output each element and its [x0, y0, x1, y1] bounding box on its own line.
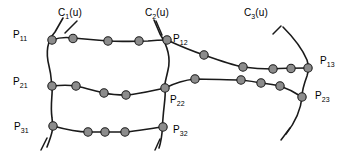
tick-c1-bottom: [41, 138, 47, 150]
control-point-n-mid-1: [72, 82, 80, 90]
control-point-n-bot-3: [121, 128, 129, 136]
label-p32: P32: [173, 125, 188, 137]
label-p31: P31: [14, 122, 29, 134]
label-p22-base: P: [170, 94, 177, 105]
label-p32-base: P: [173, 124, 180, 135]
control-point-n-mr-3: [257, 79, 265, 87]
label-p12-base: P: [173, 33, 180, 44]
label-p32-sub: 32: [180, 130, 188, 137]
control-point-p12: [163, 36, 171, 44]
control-point-p13: [304, 64, 312, 72]
label-p12: P12: [173, 34, 188, 46]
control-point-n-mid-3: [122, 91, 130, 99]
label-p31-sub: 31: [21, 127, 29, 134]
control-point-n-mr-2: [237, 76, 245, 84]
label-p23: P23: [315, 91, 330, 103]
label-p21: P21: [13, 77, 28, 89]
label-p13: P13: [320, 56, 335, 68]
label-c1: C1(u): [58, 8, 82, 20]
label-p11-base: P: [13, 29, 20, 40]
control-point-n-top-1: [69, 34, 77, 42]
label-c1-tail: (u): [69, 7, 82, 18]
label-c2: C2(u): [145, 8, 169, 20]
label-p21-base: P: [13, 76, 20, 87]
label-c3: C3(u): [244, 8, 268, 20]
label-p11-sub: 11: [20, 35, 27, 42]
tick-c3-bottom: [281, 128, 290, 140]
control-point-n-mr-4: [276, 82, 284, 90]
label-p31-base: P: [14, 121, 21, 132]
tick-c1-top: [65, 21, 77, 33]
control-point-n-tr-2: [239, 63, 247, 71]
label-p12-sub: 12: [180, 39, 188, 46]
control-point-n-top-2: [104, 37, 112, 45]
control-point-n-mid-2: [100, 89, 108, 97]
diagram-figure: C1(u) C2(u) C3(u) P11 P12 P13 P21 P22 P2…: [0, 0, 352, 156]
control-point-n-bot-2: [101, 128, 109, 136]
curve-row1-right: [167, 40, 308, 69]
label-p23-base: P: [315, 90, 322, 101]
control-point-p23: [298, 93, 306, 101]
control-point-n-tr-3: [269, 65, 277, 73]
control-point-n-mr-1: [191, 75, 199, 83]
control-point-n-tr-4: [287, 64, 295, 72]
control-point-p21: [48, 82, 56, 90]
control-point-n-bot-1: [84, 128, 92, 136]
label-p22-sub: 22: [177, 100, 185, 107]
tick-c3-top: [273, 26, 281, 34]
label-p21-sub: 21: [20, 82, 28, 89]
label-p13-base: P: [320, 55, 327, 66]
control-point-n-tr-1: [200, 51, 208, 59]
label-p23-sub: 23: [322, 96, 330, 103]
curve-c3-vertical: [283, 27, 309, 134]
label-p22: P22: [170, 95, 185, 107]
label-c3-tail: (u): [255, 7, 268, 18]
control-point-p31: [49, 122, 57, 130]
control-point-p22: [161, 84, 169, 92]
control-point-p11: [48, 36, 56, 44]
control-point-p32: [159, 123, 167, 131]
label-p11: P11: [13, 30, 27, 42]
control-point-n-top-3: [135, 37, 143, 45]
label-c2-tail: (u): [156, 7, 169, 18]
label-p13-sub: 13: [327, 61, 335, 68]
